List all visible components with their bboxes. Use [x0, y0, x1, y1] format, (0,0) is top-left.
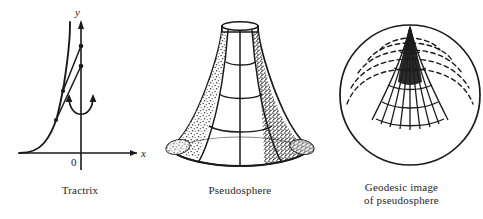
figure-pseudosphere: Pseudosphere — [160, 0, 320, 219]
caption-line: of pseudosphere — [320, 194, 483, 207]
figure-row: x y 0 Tractrix — [0, 0, 483, 219]
geodesic-diagram — [320, 0, 483, 180]
caption-tractrix: Tractrix — [0, 184, 160, 197]
figure-tractrix: x y 0 Tractrix — [0, 0, 160, 219]
caption-line: Pseudosphere — [160, 184, 320, 197]
axis-intercept-marker — [79, 64, 84, 69]
x-axis-label: x — [140, 147, 146, 159]
caption-line: Tractrix — [0, 184, 160, 197]
origin-label: 0 — [71, 156, 77, 168]
caption-geodesic-image: Geodesic image of pseudosphere — [320, 181, 483, 207]
pseudosphere-diagram — [160, 0, 320, 180]
figure-geodesic-image: Geodesic image of pseudosphere — [320, 0, 483, 219]
tangent-line-1 — [56, 66, 81, 120]
y-axis — [78, 20, 84, 170]
y-axis-label: y — [74, 6, 80, 18]
tractrix-curve — [20, 22, 70, 153]
caption-pseudosphere: Pseudosphere — [160, 184, 320, 197]
caption-line: Geodesic image — [320, 181, 483, 194]
x-axis — [18, 150, 137, 156]
tangent-point-marker — [54, 118, 58, 122]
axis-intercept-marker — [79, 44, 84, 49]
tractrix-diagram: x y 0 — [0, 0, 160, 180]
tangent-point-marker — [61, 89, 65, 93]
